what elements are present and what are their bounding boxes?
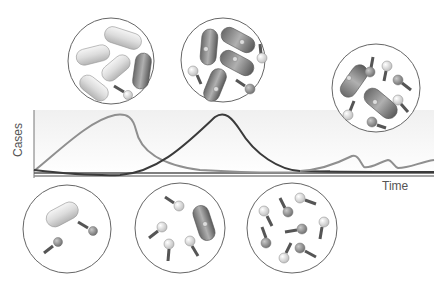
phage-dynamics-diagram: Cases Time [0,0,448,290]
phage-inside-marker [214,87,219,92]
panel-bacteria-dominant [68,18,154,104]
phage-inside-marker [233,57,238,62]
phage-inside-marker [373,100,378,105]
phage-inside-marker [204,47,209,52]
panel-circle [23,185,111,273]
phage-inside-marker [203,222,208,227]
panel-resurgence [332,44,420,132]
panel-phage-growth [135,183,225,273]
phage-inside-marker [240,40,245,45]
phage-inside-marker [347,76,352,81]
panel-initial [23,185,111,273]
panel-circle [247,183,337,273]
y-axis-label: Cases [11,123,25,157]
panel-phage-dominant [247,183,337,273]
dark-bacterium [199,28,218,65]
x-axis-label: Time [382,179,409,193]
panel-infected-bacteria [181,18,267,104]
